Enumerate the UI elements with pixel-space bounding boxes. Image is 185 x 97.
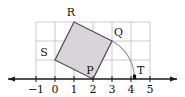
tick-label-3: 3 (109, 83, 116, 96)
axis-arrow-right (170, 76, 177, 81)
tick-label--1: −1 (28, 83, 44, 96)
tick-labels: −1 0 1 2 3 4 5 (28, 83, 154, 96)
label-vertex-r: R (67, 6, 76, 19)
tick-label-1: 1 (71, 83, 78, 96)
point-t-marker (133, 75, 136, 80)
axis-arrow-left (8, 76, 15, 81)
number-line-square-figure: −1 0 1 2 3 4 5 R Q S P T (0, 0, 185, 97)
figure-container: −1 0 1 2 3 4 5 R Q S P T (0, 0, 185, 97)
tick-label-5: 5 (147, 83, 154, 96)
label-vertex-q: Q (114, 26, 123, 39)
square-pqrs (55, 22, 112, 79)
tick-label-0: 0 (52, 83, 59, 96)
label-vertex-p: P (86, 64, 94, 77)
label-vertex-s: S (40, 46, 48, 59)
tick-label-2: 2 (90, 83, 97, 96)
label-point-t: T (137, 64, 145, 77)
tick-label-4: 4 (128, 83, 135, 96)
